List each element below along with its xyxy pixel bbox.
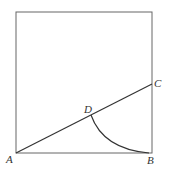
label-a: A	[5, 153, 13, 165]
geometry-diagram: A B C D	[0, 0, 172, 183]
arc-db	[91, 115, 149, 153]
segment-ac	[16, 84, 152, 153]
label-c: C	[154, 77, 162, 89]
label-b: B	[147, 154, 154, 166]
label-d: D	[83, 103, 92, 115]
square	[16, 12, 152, 153]
